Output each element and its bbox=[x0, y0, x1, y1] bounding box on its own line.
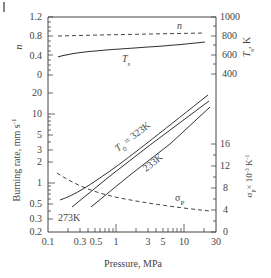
tick-label: 3 bbox=[37, 144, 42, 155]
x-axis-labels: 0.1 0.3 0.5 1 3 5 10 30 bbox=[42, 236, 221, 247]
tick-label: 0.8 bbox=[30, 30, 43, 41]
ts-axis-labels: 1000 800 600 400 bbox=[220, 11, 240, 79]
sigma-axis-labels: 16 12 8 4 0 bbox=[220, 138, 230, 237]
curve-323k-label: T0 = 323K bbox=[112, 119, 155, 157]
tick-label: 1.2 bbox=[30, 11, 43, 22]
sigma-curve bbox=[57, 173, 210, 211]
tick-label: 30 bbox=[211, 236, 221, 247]
tick-label: 20 bbox=[32, 87, 42, 98]
n-axis-labels: 1.2 0.8 0.4 0 bbox=[30, 11, 43, 80]
burning-axis-ticks bbox=[48, 93, 55, 219]
sigma-axis-ticks bbox=[211, 144, 216, 232]
ts-curve-label: Ts bbox=[122, 53, 131, 68]
curve-273k-label: 273K bbox=[58, 212, 81, 223]
tick-label: 0 bbox=[37, 69, 42, 80]
tick-label: 12 bbox=[220, 160, 230, 171]
tick-label: 10 bbox=[179, 236, 189, 247]
tick-label: 400 bbox=[222, 68, 237, 79]
ts-curve bbox=[58, 42, 205, 57]
curve-323k bbox=[60, 95, 208, 200]
tick-label: 4 bbox=[223, 204, 228, 215]
tick-label: 5 bbox=[161, 236, 166, 247]
tick-label: 10 bbox=[32, 108, 42, 119]
sigma-axis-title: σp× 10-3 K-1 bbox=[244, 155, 256, 198]
ts-axis-title: Ts, K bbox=[241, 36, 256, 57]
n-curve bbox=[58, 33, 205, 36]
tick-label: 2 bbox=[37, 156, 42, 167]
curve-233k-label: 233K bbox=[140, 151, 165, 174]
tick-label: 1 bbox=[37, 177, 42, 188]
burning-rate-chart: 1.2 0.8 0.4 0 n 1000 800 600 400 Ts, K n… bbox=[0, 0, 271, 278]
curve-273k bbox=[72, 101, 209, 207]
tick-label: 600 bbox=[222, 49, 237, 60]
tick-label: 0.3 bbox=[74, 236, 87, 247]
tick-label: 16 bbox=[220, 138, 230, 149]
n-axis-ticks bbox=[48, 17, 53, 75]
tick-label: 1 bbox=[114, 236, 119, 247]
tick-label: 0.5 bbox=[90, 236, 103, 247]
tick-label: 0.4 bbox=[30, 50, 43, 61]
burning-axis-labels: 20 10 5 3 2 1 0.5 0.3 0.2 bbox=[30, 87, 43, 237]
n-axis-title: n bbox=[13, 45, 24, 50]
tick-label: 0.1 bbox=[42, 236, 55, 247]
x-axis-ticks bbox=[68, 224, 204, 232]
tick-label: 0.5 bbox=[30, 198, 43, 209]
burning-axis-title: Burning rate, mm s-1 bbox=[10, 118, 22, 202]
sigma-curve-label: σP bbox=[175, 192, 184, 207]
tick-label: 5 bbox=[37, 129, 42, 140]
tick-label: 800 bbox=[222, 30, 237, 41]
tick-label: 0 bbox=[223, 226, 228, 237]
tick-label: 1000 bbox=[220, 11, 240, 22]
ts-axis-ticks bbox=[211, 17, 216, 74]
tick-label: 8 bbox=[223, 182, 228, 193]
tick-label: 0.3 bbox=[30, 213, 43, 224]
x-axis-title: Pressure, MPa bbox=[104, 258, 162, 269]
tick-label: 0.2 bbox=[30, 226, 43, 237]
n-curve-label: n bbox=[177, 20, 182, 31]
tick-label: 3 bbox=[146, 236, 151, 247]
